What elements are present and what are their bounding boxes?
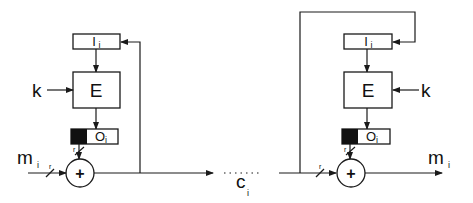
width-mark: r	[344, 146, 347, 153]
width-mark: r	[73, 146, 76, 153]
output-register-subscript: i	[105, 135, 107, 145]
ciphertext-label: c	[236, 171, 246, 192]
selected-bits-segment	[342, 129, 358, 144]
output-register-label: O	[366, 129, 376, 144]
output-register-left: O i	[71, 129, 118, 145]
output-register-label: O	[95, 129, 105, 144]
width-mark: r	[319, 163, 322, 170]
cipher-block-right: E	[344, 72, 392, 108]
feedback-path-left	[121, 42, 140, 173]
input-register-subscript: i	[371, 40, 373, 50]
selected-bits-segment	[71, 129, 87, 144]
output-register-subscript: i	[376, 135, 378, 145]
cipher-block-left: E	[73, 72, 120, 108]
encryptor-unit: I i E k O i r + m i	[17, 34, 213, 187]
key-label-right: k	[421, 80, 431, 101]
key-label-left: k	[32, 80, 42, 101]
input-register-label: I	[92, 34, 96, 49]
input-register-subscript: i	[99, 40, 101, 50]
input-register-left: I i	[73, 34, 120, 50]
xor-right: +	[337, 159, 365, 187]
input-register-right: I i	[344, 34, 392, 50]
cipher-feedback-diagram: I i E k O i r + m i	[0, 0, 473, 203]
cipher-block-label: E	[362, 80, 375, 101]
plaintext-input-subscript: i	[37, 160, 39, 170]
cipher-block-label: E	[90, 80, 103, 101]
decryptor-unit: r I i E k O i r +	[279, 12, 450, 187]
plaintext-output-label: m	[428, 147, 444, 168]
ciphertext-subscript: i	[247, 188, 249, 198]
plaintext-input-label: m	[17, 147, 33, 168]
xor-symbol: +	[346, 165, 355, 182]
plaintext-output-subscript: i	[448, 160, 450, 170]
output-register-right: O i	[342, 129, 390, 145]
input-register-label: I	[364, 34, 368, 49]
xor-left: +	[66, 159, 94, 187]
width-mark: r	[49, 163, 52, 170]
channel: c i	[224, 171, 262, 198]
xor-symbol: +	[75, 165, 84, 182]
